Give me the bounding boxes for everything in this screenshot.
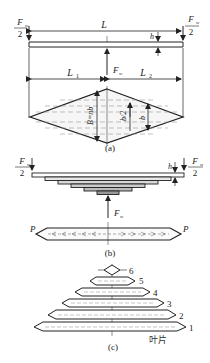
segment-dimensions: L 1 L 2 — [31, 67, 181, 79]
equal-strength-beam-plan: B=nb b/2 b — [30, 86, 183, 146]
leaf-6: 6 — [98, 265, 134, 276]
panel-b: F w 2 F w 2 h F w — [15, 156, 204, 258]
svg-text:F: F — [113, 208, 120, 218]
svg-text:L: L — [66, 67, 73, 78]
left-end-force: F w 2 — [15, 156, 32, 178]
leaf-spring-figure: L F w 2 F w 2 h F w — [0, 0, 210, 363]
center-force: F w — [108, 196, 124, 219]
svg-text:2: 2 — [20, 168, 25, 178]
leaf-2: 2 — [48, 310, 184, 321]
svg-text:w: w — [196, 20, 200, 25]
thickness-dimension: h — [150, 32, 158, 56]
svg-text:w: w — [119, 71, 123, 76]
svg-text:1: 1 — [76, 73, 79, 79]
leaf-label: 叶片 — [149, 334, 167, 345]
svg-text:L: L — [139, 67, 146, 78]
svg-text:2: 2 — [149, 73, 152, 79]
svg-text:2: 2 — [18, 29, 23, 39]
span-label: L — [100, 19, 107, 30]
width-label: B=nb — [86, 107, 95, 125]
svg-text:w: w — [120, 214, 124, 219]
svg-text:F: F — [191, 156, 198, 166]
svg-text:P: P — [182, 224, 189, 234]
beam — [29, 42, 183, 47]
caption-a: (a) — [105, 143, 115, 153]
tension-leaf: P P — [29, 222, 189, 245]
svg-text:3: 3 — [167, 299, 172, 309]
leaf-stack — [32, 173, 184, 195]
panel-a: L F w 2 F w 2 h F w — [14, 14, 200, 153]
svg-text:4: 4 — [153, 288, 158, 298]
caption-c: (c) — [108, 342, 118, 352]
svg-text:F: F — [18, 156, 25, 166]
svg-text:P: P — [29, 224, 36, 234]
left-end-force: F w 2 — [14, 17, 29, 40]
right-end-force: F w 2 — [184, 156, 204, 178]
leaf-width-label: b — [138, 116, 147, 120]
panel-c: 6 5 4 3 2 1 叶片 (c) — [34, 264, 194, 352]
svg-text:2: 2 — [193, 168, 198, 178]
svg-text:2: 2 — [189, 27, 194, 37]
svg-text:6: 6 — [129, 266, 134, 276]
svg-text:w: w — [200, 162, 204, 167]
leaf-3: 3 — [62, 299, 172, 309]
svg-text:F: F — [187, 14, 194, 24]
svg-text:w: w — [25, 23, 29, 28]
svg-text:w: w — [27, 162, 31, 167]
svg-text:h: h — [168, 162, 172, 171]
svg-text:5: 5 — [139, 276, 144, 286]
svg-text:h: h — [150, 32, 154, 41]
leaf-5: 5 — [90, 276, 144, 286]
svg-text:1: 1 — [189, 323, 194, 333]
half-width-label: b/2 — [119, 111, 128, 121]
svg-text:2: 2 — [179, 311, 184, 321]
leaf-1: 1 — [34, 322, 194, 333]
svg-text:F: F — [16, 17, 23, 27]
right-end-force: F w 2 — [183, 14, 200, 40]
leaf-4: 4 — [75, 288, 158, 298]
svg-text:F: F — [112, 65, 119, 75]
span-dimension: L — [31, 19, 181, 31]
caption-b: (b) — [105, 248, 116, 258]
